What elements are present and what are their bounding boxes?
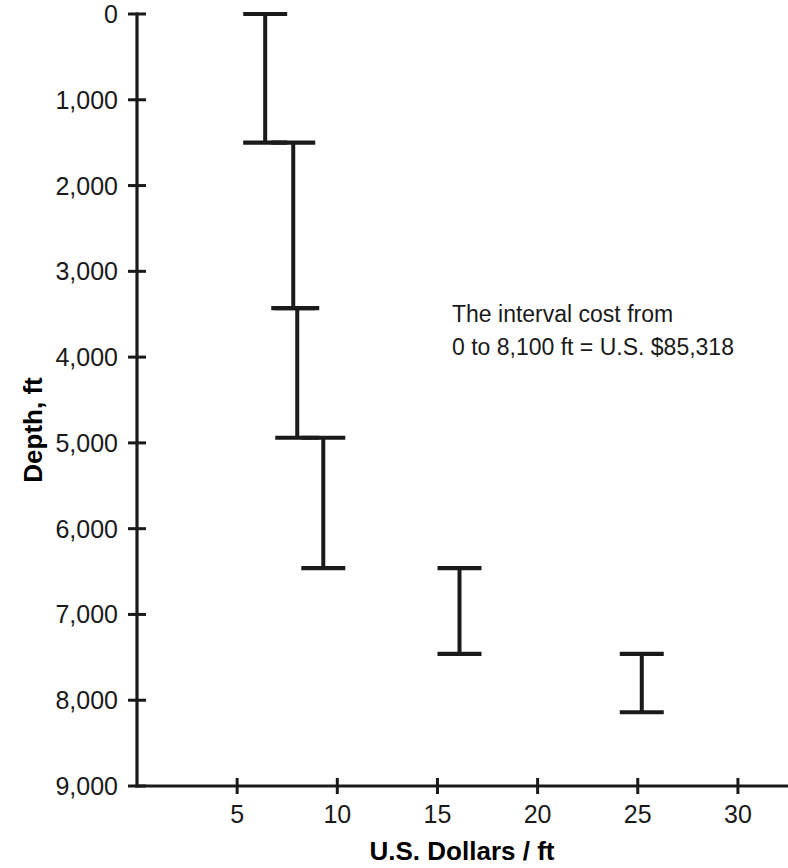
data-segment bbox=[271, 143, 315, 309]
y-tick-label: 4,000 bbox=[55, 343, 118, 371]
interval-cost-annotation: The interval cost from 0 to 8,100 ft = U… bbox=[452, 301, 734, 360]
x-tick-label: 15 bbox=[424, 800, 452, 828]
y-axis-tick-labels: 01,0002,0003,0004,0005,0006,0007,0008,00… bbox=[55, 0, 118, 800]
x-tick-label: 30 bbox=[724, 800, 752, 828]
x-tick-label: 25 bbox=[624, 800, 652, 828]
y-tick-label: 3,000 bbox=[55, 257, 118, 285]
x-tick-label: 10 bbox=[323, 800, 351, 828]
y-tick-label: 1,000 bbox=[55, 86, 118, 114]
data-segment bbox=[437, 568, 481, 654]
x-axis-tick-labels: 51015202530 bbox=[230, 800, 752, 828]
data-segment bbox=[275, 308, 319, 438]
annotation-line-1: The interval cost from bbox=[452, 301, 673, 327]
data-series-group bbox=[243, 14, 664, 712]
y-tick-label: 2,000 bbox=[55, 172, 118, 200]
data-segment bbox=[301, 438, 345, 568]
chart-container: 01,0002,0003,0004,0005,0006,0007,0008,00… bbox=[0, 0, 788, 868]
y-tick-label: 0 bbox=[104, 0, 118, 28]
annotation-line-2: 0 to 8,100 ft = U.S. $85,318 bbox=[452, 334, 734, 360]
data-segment bbox=[620, 654, 664, 712]
y-tick-label: 5,000 bbox=[55, 429, 118, 457]
y-tick-label: 6,000 bbox=[55, 515, 118, 543]
y-tick-label: 7,000 bbox=[55, 600, 118, 628]
y-tick-label: 8,000 bbox=[55, 686, 118, 714]
x-axis-title: U.S. Dollars / ft bbox=[370, 836, 555, 866]
x-tick-label: 20 bbox=[524, 800, 552, 828]
axes-group bbox=[137, 14, 788, 786]
y-tick-label: 9,000 bbox=[55, 772, 118, 800]
x-tick-label: 5 bbox=[230, 800, 244, 828]
depth-vs-cost-chart: 01,0002,0003,0004,0005,0006,0007,0008,00… bbox=[0, 0, 788, 868]
data-segment bbox=[243, 14, 287, 143]
y-axis-title: Depth, ft bbox=[18, 377, 48, 483]
